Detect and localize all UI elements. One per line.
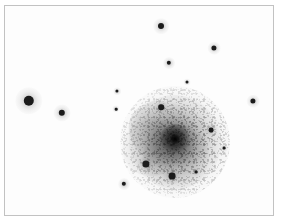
star-north-east — [211, 45, 216, 50]
star-faint-west-b — [115, 108, 118, 111]
star-faint-west-a — [115, 89, 118, 92]
star-west-lower — [59, 110, 65, 116]
star-faint-east-lower — [223, 147, 226, 150]
star-galaxy-south — [169, 173, 176, 180]
star-upper-center — [167, 61, 171, 65]
star-faint-upper-right — [186, 81, 189, 84]
star-galaxy-south-west — [142, 160, 149, 167]
star-bright-west — [24, 96, 34, 106]
star-faint-south-east — [195, 171, 198, 174]
star-south-west-outer — [122, 182, 126, 186]
astronomical-figure — [0, 0, 284, 221]
image-frame — [4, 5, 274, 216]
star-east-edge — [250, 98, 255, 103]
star-galaxy-north — [158, 104, 164, 110]
star-north-center — [158, 23, 164, 29]
star-galaxy-east — [209, 128, 214, 133]
